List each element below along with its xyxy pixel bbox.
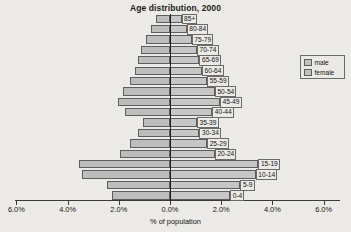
plot-area: 0-45-910-1415-1920-2425-2930-3435-3940-4…: [15, 14, 340, 201]
age-group-label: 25-29: [207, 138, 229, 149]
age-group-label: 40-44: [212, 107, 234, 118]
x-tick-label: 2.0%: [213, 205, 230, 214]
bar-female: [170, 15, 182, 23]
age-group-label: 5-9: [240, 180, 254, 191]
age-group-label: 85+: [182, 14, 198, 25]
pyramid-row: 5-9: [15, 180, 340, 190]
x-tick-label: 4.0%: [264, 205, 281, 214]
pyramid-row: 60-64: [15, 66, 340, 76]
bar-female: [170, 46, 197, 54]
pyramid-row: 0-4: [15, 191, 340, 201]
x-tick-label: 6.0%: [8, 205, 25, 214]
bar-female: [170, 77, 207, 85]
pyramid-row: 20-24: [15, 149, 340, 159]
pyramid-row: 75-79: [15, 35, 340, 45]
pyramid-row: 80-84: [15, 24, 340, 34]
x-tick: [16, 201, 17, 205]
bar-female: [170, 98, 220, 106]
x-axis-title: % of population: [0, 217, 351, 226]
pyramid-row: 85+: [15, 14, 340, 24]
x-tick: [170, 201, 171, 205]
x-tick: [324, 201, 325, 205]
x-axis: 6.0%4.0%2.0%0.0%2.0%4.0%6.0%: [15, 201, 340, 217]
age-group-label: 15-19: [258, 159, 280, 170]
pyramid-row: 25-29: [15, 139, 340, 149]
bar-male: [143, 118, 170, 126]
x-tick-label: 2.0%: [110, 205, 127, 214]
age-group-label: 30-34: [199, 128, 221, 139]
legend-item-female: female: [304, 68, 345, 78]
bar-male: [130, 139, 170, 147]
bar-male: [156, 15, 170, 23]
pyramid-row: 30-34: [15, 128, 340, 138]
bar-female: [170, 181, 240, 189]
legend-swatch-female: [304, 69, 312, 76]
bar-female: [170, 118, 197, 126]
chart-legend: male female: [300, 55, 345, 79]
bar-male: [120, 150, 170, 158]
bar-female: [170, 139, 207, 147]
bar-male: [146, 35, 170, 43]
bar-female: [170, 191, 230, 199]
bar-female: [170, 150, 215, 158]
chart-title: Age distribution, 2000: [0, 3, 351, 13]
x-tick-label: 0.0%: [162, 205, 179, 214]
bar-female: [170, 129, 199, 137]
age-group-label: 50-54: [215, 86, 237, 97]
age-group-label: 35-39: [197, 117, 219, 128]
age-group-label: 20-24: [215, 149, 237, 160]
age-group-label: 75-79: [192, 34, 214, 45]
pyramid-row: 50-54: [15, 87, 340, 97]
legend-label-male: male: [315, 59, 329, 66]
age-group-label: 45-49: [220, 97, 242, 108]
pyramid-row: 65-69: [15, 56, 340, 66]
pyramid-row: 15-19: [15, 159, 340, 169]
age-group-label: 60-64: [202, 65, 224, 76]
legend-item-male: male: [304, 58, 345, 68]
bar-male: [130, 77, 170, 85]
x-tick: [119, 201, 120, 205]
bar-male: [118, 98, 170, 106]
pyramid-row: 35-39: [15, 118, 340, 128]
pyramid-row: 45-49: [15, 97, 340, 107]
population-pyramid-chart: Age distribution, 2000 0-45-910-1415-192…: [0, 0, 351, 232]
bar-male: [138, 129, 170, 137]
x-tick-label: 6.0%: [315, 205, 332, 214]
bar-male: [135, 67, 170, 75]
bar-male: [79, 160, 170, 168]
bar-male: [112, 191, 170, 199]
pyramid-row: 10-14: [15, 170, 340, 180]
age-group-label: 80-84: [187, 24, 209, 35]
x-tick: [221, 201, 222, 205]
age-group-label: 0-4: [230, 190, 244, 201]
bar-female: [170, 160, 258, 168]
zero-axis-line: [170, 14, 171, 201]
x-tick: [272, 201, 273, 205]
legend-swatch-male: [304, 59, 312, 66]
pyramid-row: 40-44: [15, 108, 340, 118]
bar-female: [170, 87, 215, 95]
age-group-label: 70-74: [197, 45, 219, 56]
bar-female: [170, 67, 202, 75]
bar-male: [141, 46, 170, 54]
legend-label-female: female: [315, 69, 335, 76]
pyramid-row: 70-74: [15, 45, 340, 55]
bar-male: [82, 170, 170, 178]
bar-male: [125, 108, 170, 116]
bar-male: [123, 87, 170, 95]
bar-female: [170, 108, 212, 116]
bar-male: [138, 56, 170, 64]
bar-male: [107, 181, 170, 189]
bar-female: [170, 35, 192, 43]
bar-male: [151, 25, 170, 33]
bar-female: [170, 25, 187, 33]
age-group-label: 55-59: [207, 76, 229, 87]
bar-female: [170, 56, 199, 64]
x-tick-label: 4.0%: [59, 205, 76, 214]
x-tick: [68, 201, 69, 205]
pyramid-row: 55-59: [15, 76, 340, 86]
age-group-label: 65-69: [199, 55, 221, 66]
age-group-label: 10-14: [256, 169, 278, 180]
bar-female: [170, 170, 256, 178]
